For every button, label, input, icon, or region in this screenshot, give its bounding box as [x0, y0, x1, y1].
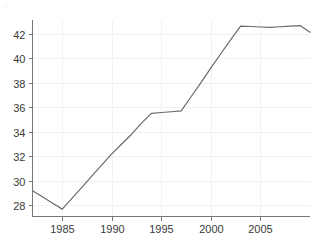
x-axis-tick-labels: 19851990199520002005	[50, 223, 272, 235]
x-tick-label-1985: 1985	[50, 223, 74, 235]
horizontal-gridlines	[33, 35, 311, 206]
y-tick-label-30: 30	[13, 176, 25, 188]
vertical-gridlines	[63, 20, 261, 217]
y-tick-label-38: 38	[13, 78, 25, 90]
x-tick-label-2005: 2005	[248, 223, 272, 235]
y-axis-ticks	[29, 35, 33, 206]
y-tick-label-40: 40	[13, 53, 25, 65]
x-axis-ticks	[63, 217, 261, 221]
y-tick-label-42: 42	[13, 29, 25, 41]
chart-canvas: 2830323436384042 19851990199520002005	[0, 0, 316, 250]
x-tick-label-1995: 1995	[149, 223, 173, 235]
y-tick-label-34: 34	[13, 127, 25, 139]
x-tick-label-1990: 1990	[100, 223, 124, 235]
x-tick-label-2000: 2000	[199, 223, 223, 235]
y-tick-label-32: 32	[13, 151, 25, 163]
chart-axes	[33, 20, 311, 217]
line-chart: 2830323436384042 19851990199520002005	[0, 0, 316, 250]
y-axis-tick-labels: 2830323436384042	[13, 29, 25, 212]
y-tick-label-28: 28	[13, 200, 25, 212]
y-tick-label-36: 36	[13, 102, 25, 114]
